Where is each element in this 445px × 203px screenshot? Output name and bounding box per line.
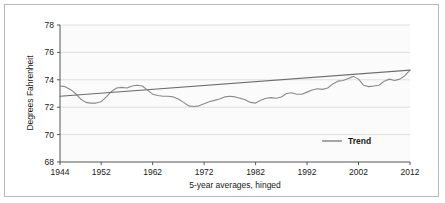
x-tick-label: 1952 bbox=[92, 167, 111, 177]
x-tick-label: 1972 bbox=[195, 167, 214, 177]
y-axis-title: Degrees Fahrenheit bbox=[25, 55, 35, 131]
y-tick-label: 70 bbox=[45, 130, 55, 140]
y-axis-tick-labels: 687072747678 bbox=[45, 20, 55, 167]
x-axis-title: 5-year averages, hinged bbox=[189, 180, 281, 190]
y-tick-label: 68 bbox=[45, 157, 55, 167]
x-tick-label: 1944 bbox=[51, 167, 70, 177]
chart-figure: 19441952196219721982199220022012 6870727… bbox=[0, 0, 445, 203]
chart-canvas: 19441952196219721982199220022012 6870727… bbox=[0, 0, 445, 203]
y-tick-label: 72 bbox=[45, 102, 55, 112]
y-tick-label: 78 bbox=[45, 20, 55, 30]
y-tick-label: 74 bbox=[45, 75, 55, 85]
legend-label-trend: Trend bbox=[348, 136, 371, 146]
y-tick-label: 76 bbox=[45, 47, 55, 57]
x-tick-label: 1982 bbox=[246, 167, 265, 177]
x-tick-label: 1992 bbox=[298, 167, 317, 177]
x-tick-label: 1962 bbox=[143, 167, 162, 177]
x-tick-label: 2012 bbox=[401, 167, 420, 177]
x-tick-label: 2002 bbox=[349, 167, 368, 177]
x-axis-tick-labels: 19441952196219721982199220022012 bbox=[51, 167, 420, 177]
